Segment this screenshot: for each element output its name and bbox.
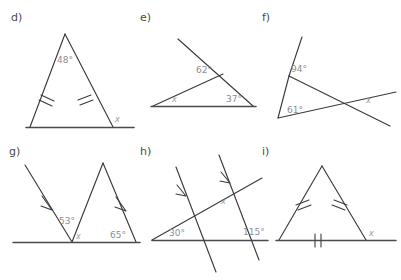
figure-g-angle-x: x: [75, 232, 81, 241]
figure-e-angle-x: x: [171, 95, 177, 104]
figure-f-label: f): [262, 11, 270, 24]
figure-h-angle-30: 30°: [169, 228, 185, 238]
figure-g-label: g): [9, 145, 20, 158]
figure-g: g) 53° x 65°: [9, 145, 140, 243]
figure-i-label: i): [262, 145, 269, 158]
figure-i-angle-x: x: [368, 229, 374, 238]
figure-d-right-leg: [65, 34, 113, 127]
figure-h-angle-115: 115°: [243, 227, 265, 237]
figure-f-angle-61: 61°: [287, 105, 303, 115]
figure-d-angle-x: x: [114, 115, 120, 124]
figure-h-label: h): [140, 145, 151, 158]
figure-e-angle-37: 37°: [226, 94, 242, 104]
figure-g-left-arrow-mark: [41, 196, 52, 210]
figure-e: e) 62° 37° x: [140, 11, 256, 107]
figure-f-diagonal-down: [289, 76, 390, 126]
figure-i: i) x: [262, 145, 396, 247]
figure-e-label: e): [140, 11, 151, 24]
figure-h: h) 30° x 115°: [140, 145, 268, 272]
figure-i-right-leg: [322, 166, 366, 240]
figure-h-arrow-mark-2: [220, 172, 230, 183]
figure-h-angle-x: x: [220, 197, 226, 206]
worksheet-canvas: d) 48° x e): [0, 0, 401, 280]
figure-h-parallel-line-1: [176, 167, 216, 272]
figure-e-upper-side: [153, 74, 223, 106]
figure-d-right-tick: [78, 95, 93, 105]
figure-f-angle-x: x: [365, 96, 371, 105]
figure-d-left-leg: [30, 34, 65, 127]
figure-g-right-arrow-mark: [115, 197, 126, 211]
figure-h-parallel-line-2: [219, 155, 259, 260]
figure-d-label: d): [11, 11, 22, 24]
figure-d-angle-apex: 48°: [57, 55, 73, 65]
figure-g-middle-segment: [72, 163, 103, 242]
figure-g-angle-65: 65°: [110, 230, 126, 240]
figure-f: f) 94° 61° x: [262, 11, 396, 126]
figure-g-left-segment: [25, 165, 72, 242]
figure-d: d) 48° x: [11, 11, 134, 128]
figure-e-angle-62: 62°: [196, 65, 212, 75]
figure-i-left-tick: [296, 200, 311, 210]
figure-g-angle-53: 53°: [59, 216, 75, 226]
figure-f-angle-94: 94°: [291, 64, 307, 74]
